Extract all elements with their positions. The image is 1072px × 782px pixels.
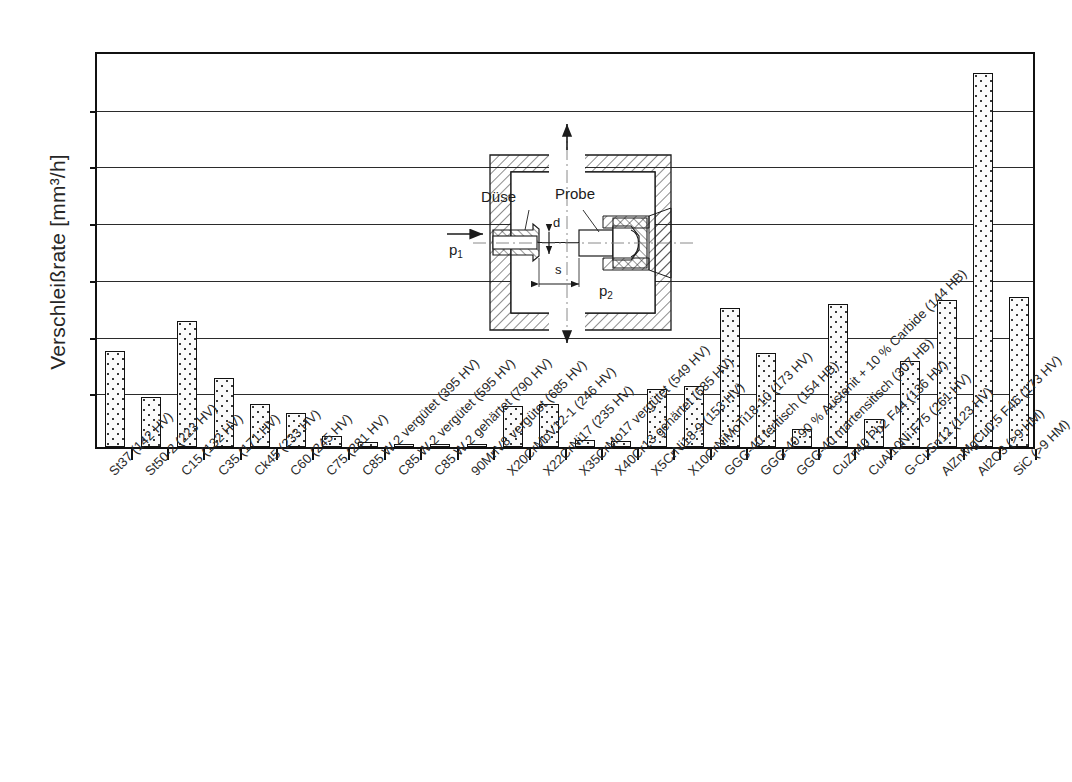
x-axis-tick-labels: St37 (142 HV)St50-2 (223 HV)C15 (132 HV)…	[0, 0, 1053, 782]
chart-figure: Verschleißrate [mm³/h] 14 12 10 8 6 4 2 …	[0, 0, 1053, 782]
